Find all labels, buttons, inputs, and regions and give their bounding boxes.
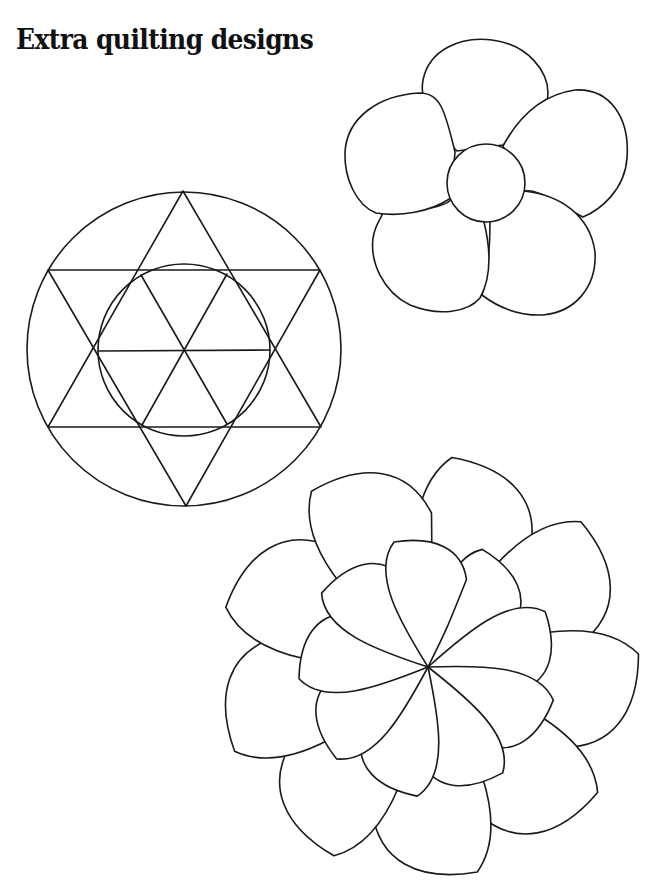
flower-petal-upper-left bbox=[345, 93, 455, 214]
star-triangle-down bbox=[48, 270, 320, 506]
quilting-designs-canvas bbox=[0, 0, 662, 892]
star-triangle-up bbox=[48, 191, 321, 427]
flower-center-circle bbox=[447, 144, 525, 222]
swirl-flower bbox=[226, 458, 639, 875]
star-in-circle bbox=[27, 191, 341, 506]
swirl-center-point bbox=[426, 665, 430, 669]
five-petal-flower bbox=[345, 39, 627, 315]
